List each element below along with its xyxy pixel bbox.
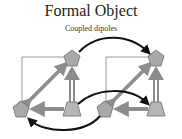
left-top-pentagon-node [64, 50, 80, 66]
coupled-dipoles-diagram [0, 0, 182, 139]
right-top-pentagon-node [148, 50, 164, 66]
bottom-coupling-arrow [30, 116, 100, 130]
left-dipole [13, 50, 81, 117]
top-coupling-arrow [79, 38, 148, 52]
right-dipole [97, 50, 165, 117]
right-frame [106, 57, 150, 104]
left-bottom-left-pentagon-node [13, 101, 29, 117]
right-diagonal-arrow [112, 66, 148, 102]
right-trapezoid-node [147, 102, 165, 116]
left-diagonal-arrow [28, 66, 64, 102]
left-vertical-arrowhead [64, 66, 80, 80]
right-bottom-left-pentagon-node [97, 101, 113, 117]
left-frame [22, 57, 66, 104]
right-vertical-arrowhead [148, 66, 164, 80]
